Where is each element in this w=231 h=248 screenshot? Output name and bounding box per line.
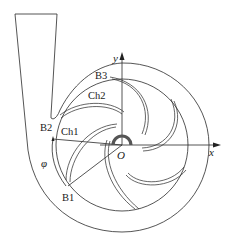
label-b2: B2 bbox=[40, 122, 52, 133]
label-ch2: Ch2 bbox=[88, 90, 106, 101]
pump-diagram: B3 Ch2 B2 Ch1 B1 O y x φ bbox=[0, 0, 231, 248]
angle-reference bbox=[52, 136, 123, 186]
y-axis-arrow-icon bbox=[120, 52, 125, 60]
angle-arrow-icon bbox=[52, 136, 55, 141]
coordinate-axes bbox=[100, 52, 221, 148]
label-x-axis: x bbox=[208, 146, 214, 158]
label-b1: B1 bbox=[62, 192, 74, 203]
label-angle-phi: φ bbox=[41, 157, 47, 169]
label-y-axis: y bbox=[112, 52, 118, 64]
label-ch1: Ch1 bbox=[61, 126, 79, 137]
x-axis-arrow-icon bbox=[213, 143, 221, 148]
label-origin: O bbox=[117, 149, 125, 161]
angle-arc bbox=[52, 139, 66, 186]
label-b3: B3 bbox=[95, 70, 107, 81]
reference-line-b1 bbox=[68, 145, 122, 186]
